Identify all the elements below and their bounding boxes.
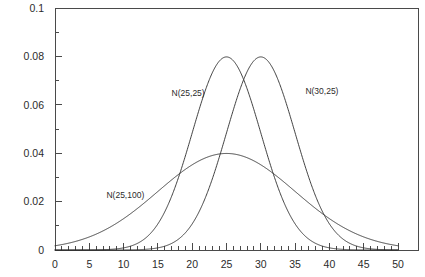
plot-frame: [55, 8, 418, 250]
curve-annotations-group: N(25,25)N(30,25)N(25,100): [106, 86, 338, 200]
y-tick-label: 0.04: [24, 147, 45, 159]
x-tick-label: 40: [324, 258, 336, 270]
x-tick-label: 5: [86, 258, 92, 270]
curve-series-group: [55, 57, 398, 250]
x-tick-label: 30: [255, 258, 267, 270]
x-tick-label: 0: [52, 258, 58, 270]
normal-distribution-chart: 00.020.040.060.080.1 0510152025303540455…: [0, 0, 425, 277]
curve-label-n25100: N(25,100): [106, 190, 144, 200]
axis-frame: [55, 8, 418, 250]
y-tick-label: 0.08: [24, 50, 45, 62]
y-tick-label: 0.02: [24, 195, 45, 207]
y-tick-label: 0.06: [24, 99, 45, 111]
x-tick-label: 45: [358, 258, 370, 270]
x-tick-label: 20: [186, 258, 198, 270]
x-tick-label: 35: [289, 258, 301, 270]
curve-label-n2525: N(25,25): [172, 88, 205, 98]
plot-area: 00.020.040.060.080.1 0510152025303540455…: [0, 0, 425, 277]
x-tick-label: 50: [392, 258, 404, 270]
x-tick-label: 25: [221, 258, 233, 270]
y-axis: 00.020.040.060.080.1: [24, 2, 62, 256]
curve-label-n3025: N(30,25): [305, 86, 338, 96]
x-tick-label: 10: [118, 258, 130, 270]
x-tick-label: 15: [152, 258, 164, 270]
x-axis: 05101520253035404550: [52, 243, 404, 270]
y-tick-label: 0.1: [29, 2, 44, 14]
y-tick-label: 0: [38, 244, 44, 256]
